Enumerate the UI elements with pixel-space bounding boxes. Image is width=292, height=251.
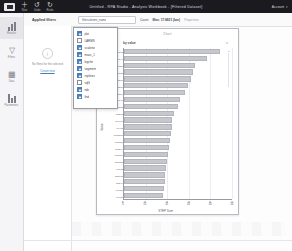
bar[interactable] xyxy=(124,193,163,198)
dropdown-item[interactable]: plot xyxy=(74,30,117,37)
sidebar-item-data[interactable]: ▦ Data xyxy=(0,65,23,87)
y-axis-tick-label: vvj450 xyxy=(116,195,123,198)
x-axis-tick-label: 50 xyxy=(231,201,234,206)
bar[interactable] xyxy=(124,90,185,95)
bar[interactable] xyxy=(124,131,171,136)
chart-panel-title: Chart xyxy=(97,32,238,36)
dropdown-item-label: scaleno xyxy=(84,46,94,50)
dropdown-item[interactable]: LARMS xyxy=(74,37,117,44)
checkbox-icon[interactable] xyxy=(77,80,82,85)
y-axis-label: Value xyxy=(100,123,104,130)
chip-count[interactable]: Count xyxy=(140,18,149,22)
bar[interactable] xyxy=(124,124,172,129)
bar[interactable] xyxy=(124,69,193,74)
dropdown-item[interactable]: replines xyxy=(74,72,117,79)
create-new-filter-link[interactable]: Create new xyxy=(40,69,54,73)
x-axis-tick-label: 30 xyxy=(187,201,190,206)
new-button-label: New xyxy=(22,9,28,12)
bar[interactable] xyxy=(124,111,174,116)
bar[interactable] xyxy=(124,97,180,102)
dropdown-item[interactable]: find xyxy=(74,93,117,100)
bar-row: ooc294 xyxy=(124,144,232,151)
sidebar-item-results[interactable]: Results xyxy=(0,17,23,39)
bar-row: ffs208 xyxy=(124,82,232,89)
table-icon: ▦ xyxy=(8,70,16,79)
bar[interactable] xyxy=(124,159,167,164)
bar-row: rrf082 xyxy=(124,165,232,172)
checkbox-icon[interactable] xyxy=(77,66,82,71)
sliders-icon xyxy=(6,93,17,103)
bar-row: llz463 xyxy=(124,124,232,131)
checkbox-icon[interactable] xyxy=(77,94,82,99)
bar-row: nnb750 xyxy=(124,137,232,144)
y-axis-tick-label: kkx901 xyxy=(115,120,123,123)
y-axis-tick-label: llz463 xyxy=(117,127,123,130)
chart-title: by value xyxy=(123,41,136,45)
x-axis-tick-text: 40 xyxy=(209,203,212,206)
chip-properties[interactable]: Properties xyxy=(184,18,199,22)
sidebar-item-filters[interactable]: ▽ Filters xyxy=(0,41,23,63)
dropdown-item-label: plot xyxy=(84,32,89,36)
app-window: ＋ New ↺ Undo ↻ Redo Untitled - RPA Studi… xyxy=(0,0,292,251)
checkbox-icon[interactable] xyxy=(77,87,82,92)
plus-icon: ＋ xyxy=(21,1,28,8)
bar[interactable] xyxy=(124,56,207,61)
info-icon: i xyxy=(42,48,53,59)
dropdown-item[interactable]: mass_1 xyxy=(74,51,117,58)
bar[interactable] xyxy=(124,83,188,88)
checkbox-icon[interactable] xyxy=(77,31,82,36)
sub-toolbar: Applied filters filtercolumn_name Count … xyxy=(24,13,292,27)
bar[interactable] xyxy=(124,138,170,143)
x-axis-tick-label: 20 xyxy=(165,201,168,206)
dropdown-item[interactable]: scaleno xyxy=(74,44,117,51)
bar-row: bbr144 xyxy=(124,55,232,62)
x-axis-tick-text: 10 xyxy=(143,203,146,206)
dropdown-item-label: find xyxy=(84,95,89,99)
bar-row: kkx901 xyxy=(124,117,232,124)
x-axis-ticks: 01020304050 xyxy=(123,201,232,207)
y-axis-tick-label: ooc294 xyxy=(115,147,123,150)
account-menu[interactable]: Account ▾ xyxy=(272,5,288,9)
bar-row: ssg613 xyxy=(124,172,232,179)
checkbox-icon[interactable] xyxy=(77,59,82,64)
new-button[interactable]: ＋ New xyxy=(21,1,28,12)
redo-button[interactable]: ↻ Redo xyxy=(47,1,54,12)
dropdown-item[interactable]: segment xyxy=(74,65,117,72)
dropdown-item[interactable]: nds xyxy=(74,86,117,93)
chip-max[interactable]: Max: 17.8821 (bar) xyxy=(152,18,180,22)
dropdown-item-label: segment xyxy=(84,67,96,71)
window-title: Untitled - RPA Studio - Analysis Workboo… xyxy=(89,5,202,9)
bar[interactable] xyxy=(124,49,220,54)
background-strip xyxy=(72,222,286,236)
bar[interactable] xyxy=(124,63,195,68)
bar[interactable] xyxy=(124,179,165,184)
y-axis-tick-label: rrf082 xyxy=(117,168,123,171)
no-filters-message: No filters for the selected xyxy=(27,63,69,67)
column-search-input[interactable]: filtercolumn_name xyxy=(78,16,136,24)
bar[interactable] xyxy=(124,117,172,122)
bar[interactable] xyxy=(124,165,166,170)
bar[interactable] xyxy=(124,76,191,81)
column-multiselect-dropdown[interactable]: plotLARMSscalenomass_1logchnsegmentrepli… xyxy=(73,27,118,109)
bar[interactable] xyxy=(124,104,178,109)
chevron-down-icon: ▾ xyxy=(286,5,288,9)
info-glyph: i xyxy=(47,51,48,57)
bar[interactable] xyxy=(124,145,169,150)
x-axis-label: STEP Sum → xyxy=(97,209,238,213)
bar[interactable] xyxy=(124,152,168,157)
bar[interactable] xyxy=(124,172,165,177)
app-logo-icon xyxy=(4,3,15,11)
column-search-value: filtercolumn_name xyxy=(82,18,107,22)
bar-row: qqe537 xyxy=(124,158,232,165)
checkbox-icon[interactable] xyxy=(77,38,82,43)
dropdown-item[interactable]: vdjV xyxy=(74,79,117,86)
bar[interactable] xyxy=(124,186,164,191)
checkbox-icon[interactable] xyxy=(77,73,82,78)
undo-button[interactable]: ↺ Undo xyxy=(34,1,41,12)
checkbox-icon[interactable] xyxy=(77,45,82,50)
sidebar-item-parameters[interactable]: Parameters xyxy=(0,89,23,111)
dropdown-item[interactable]: logchn xyxy=(74,58,117,65)
checkbox-icon[interactable] xyxy=(77,52,82,57)
account-label: Account xyxy=(272,5,284,9)
bar-row: cclm20 xyxy=(124,62,232,69)
